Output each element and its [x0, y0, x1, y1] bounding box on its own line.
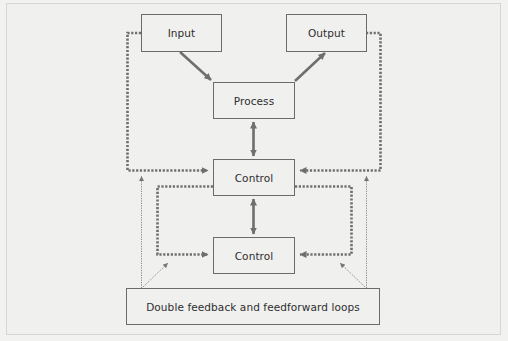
fine-arrow-inner-right — [340, 263, 365, 287]
control-lower-node: Control — [213, 237, 295, 274]
outer-right-loop — [300, 33, 381, 171]
inner-left-loop — [158, 187, 214, 255]
footer-node: Double feedback and feedforward loops — [126, 288, 380, 325]
control-upper-label: Control — [235, 172, 274, 184]
process-node: Process — [213, 82, 295, 119]
input-label: Input — [168, 27, 196, 39]
process-label: Process — [234, 95, 275, 107]
arrow-process-to-output — [295, 53, 325, 81]
inner-right-loop — [295, 187, 352, 255]
control-lower-label: Control — [235, 250, 274, 262]
outer-left-loop — [128, 33, 209, 171]
control-upper-node: Control — [213, 159, 295, 196]
solid-arrows — [180, 52, 325, 234]
fine-arrow-inner-left — [143, 263, 168, 287]
output-label: Output — [308, 27, 345, 39]
output-node: Output — [286, 14, 367, 52]
input-node: Input — [141, 14, 222, 52]
arrow-input-to-process — [180, 52, 211, 80]
footer-label: Double feedback and feedforward loops — [146, 301, 360, 313]
